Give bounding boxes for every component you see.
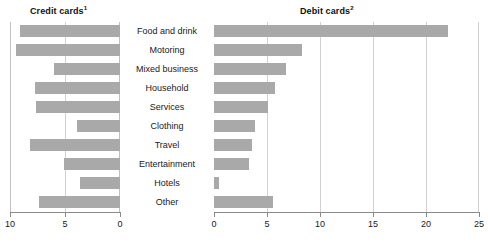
debit-cards-title-text: Debit cards <box>300 6 350 16</box>
category-label: Other <box>124 197 210 207</box>
debit-cards-x-tick <box>373 213 374 217</box>
credit-cards-x-tick-label: 0 <box>117 219 122 229</box>
debit-cards-x-tick-label: 10 <box>315 219 325 229</box>
credit-cards-x-tick <box>65 213 66 217</box>
credit-cards-x-tick-label: 5 <box>62 219 67 229</box>
credit-cards-bar-row <box>10 155 120 174</box>
debit-cards-bar-row <box>214 155 479 174</box>
debit-cards-x-tick-label: 0 <box>211 219 216 229</box>
credit-cards-bar[interactable] <box>20 25 120 37</box>
credit-cards-bar-row <box>10 117 120 136</box>
debit-cards-bar-row <box>214 174 479 193</box>
debit-cards-x-tick <box>267 213 268 217</box>
debit-cards-bar[interactable] <box>214 120 255 132</box>
debit-cards-bar-row <box>214 60 479 79</box>
debit-cards-bar-row <box>214 98 479 117</box>
debit-cards-x-tick-label: 5 <box>264 219 269 229</box>
credit-cards-bar[interactable] <box>39 196 120 208</box>
credit-cards-bar[interactable] <box>30 139 120 151</box>
debit-cards-bar[interactable] <box>214 196 273 208</box>
debit-cards-bar-row <box>214 22 479 41</box>
credit-cards-bar-row <box>10 79 120 98</box>
debit-cards-bar[interactable] <box>214 44 302 56</box>
credit-cards-bar-row <box>10 174 120 193</box>
category-label: Household <box>124 83 210 93</box>
credit-cards-bar[interactable] <box>16 44 121 56</box>
credit-cards-bar[interactable] <box>77 120 120 132</box>
credit-cards-bar-row <box>10 136 120 155</box>
debit-cards-title-superscript: 2 <box>350 5 353 11</box>
debit-cards-x-tick-label: 20 <box>421 219 431 229</box>
debit-cards-x-tick <box>214 213 215 217</box>
credit-cards-bar[interactable] <box>35 82 120 94</box>
category-label: Services <box>124 102 210 112</box>
debit-cards-bar[interactable] <box>214 158 249 170</box>
credit-cards-bar-row <box>10 41 120 60</box>
credit-cards-panel-title: Credit cards1 <box>30 6 87 16</box>
debit-cards-x-tick <box>320 213 321 217</box>
debit-cards-plot-area <box>214 22 479 212</box>
debit-cards-bar[interactable] <box>214 101 268 113</box>
category-label: Food and drink <box>124 26 210 36</box>
debit-cards-x-tick-label: 15 <box>368 219 378 229</box>
debit-cards-bar-row <box>214 136 479 155</box>
category-label: Mixed business <box>124 64 210 74</box>
debit-cards-bar-row <box>214 79 479 98</box>
debit-cards-panel-title: Debit cards2 <box>300 6 354 16</box>
category-label: Entertainment <box>124 159 210 169</box>
credit-cards-bar[interactable] <box>80 177 120 189</box>
category-label-column: Food and drinkMotoringMixed businessHous… <box>124 22 210 212</box>
credit-cards-bar[interactable] <box>54 63 120 75</box>
debit-cards-x-tick <box>479 213 480 217</box>
debit-cards-x-tick-label: 25 <box>474 219 484 229</box>
credit-cards-bar-row <box>10 98 120 117</box>
credit-cards-title-text: Credit cards <box>30 6 84 16</box>
debit-cards-bar[interactable] <box>214 177 219 189</box>
debit-cards-bar[interactable] <box>214 25 448 37</box>
credit-cards-bar-row <box>10 22 120 41</box>
debit-cards-x-tick <box>426 213 427 217</box>
credit-cards-bar[interactable] <box>36 101 120 113</box>
debit-cards-bar[interactable] <box>214 82 275 94</box>
category-label: Travel <box>124 140 210 150</box>
debit-cards-bar[interactable] <box>214 63 286 75</box>
credit-cards-bar[interactable] <box>64 158 120 170</box>
credit-cards-plot-area <box>10 22 120 212</box>
debit-cards-bar[interactable] <box>214 139 252 151</box>
debit-cards-bar-row <box>214 193 479 212</box>
category-label: Motoring <box>124 45 210 55</box>
credit-cards-x-tick <box>10 213 11 217</box>
credit-cards-title-superscript: 1 <box>84 5 87 11</box>
credit-cards-bar-row <box>10 60 120 79</box>
category-label: Hotels <box>124 178 210 188</box>
credit-cards-x-tick <box>120 213 121 217</box>
credit-cards-x-tick-label: 10 <box>5 219 15 229</box>
category-label: Clothing <box>124 121 210 131</box>
credit-cards-bar-row <box>10 193 120 212</box>
dual-bar-chart-figure: Credit cards1 Debit cards2 Food and drin… <box>0 0 488 243</box>
debit-cards-bar-row <box>214 41 479 60</box>
debit-cards-bar-row <box>214 117 479 136</box>
debit-cards-x-axis-line <box>214 212 480 213</box>
